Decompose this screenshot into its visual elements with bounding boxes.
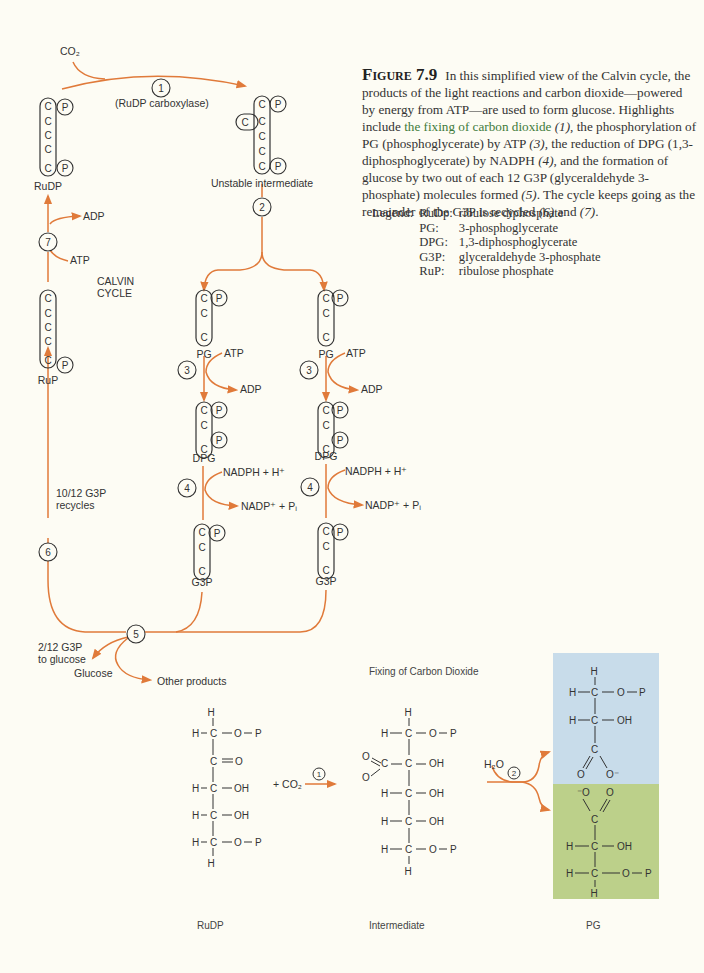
step-3-right-marker: 3 bbox=[300, 361, 318, 379]
svg-text:P: P bbox=[337, 527, 344, 538]
caption-highlight: the fixing of carbon dioxide bbox=[404, 119, 551, 134]
svg-text:2: 2 bbox=[259, 202, 265, 213]
svg-text:OH: OH bbox=[429, 758, 444, 769]
legend-meaning: 1,3-diphosphoglycerate bbox=[459, 235, 607, 250]
rup-molecule: C C C C C P RuP bbox=[38, 290, 73, 386]
legend-abbr: RuDp: bbox=[419, 206, 459, 221]
legend-title: Legend: bbox=[372, 206, 419, 221]
figure-caption: Figure 7.9In this simplified view of the… bbox=[362, 66, 697, 220]
h2o-label: H₂O bbox=[484, 758, 504, 770]
svg-text:C: C bbox=[200, 308, 207, 319]
svg-text:H: H bbox=[192, 728, 199, 739]
step3-left-atp: ATP bbox=[224, 347, 244, 359]
svg-text:2: 2 bbox=[512, 769, 517, 778]
svg-text:C: C bbox=[322, 332, 329, 343]
svg-text:4: 4 bbox=[307, 482, 313, 493]
fixing-step-2-marker: 2 bbox=[508, 767, 520, 779]
svg-text:O⁻: O⁻ bbox=[606, 769, 619, 780]
step7-adp-label: ADP bbox=[83, 210, 105, 222]
calvin-cycle-title-1: CALVIN bbox=[97, 275, 134, 287]
svg-text:C: C bbox=[258, 116, 265, 127]
svg-text:P: P bbox=[216, 405, 223, 416]
fixing-step-1-marker: 1 bbox=[313, 768, 325, 780]
svg-text:C: C bbox=[258, 131, 265, 142]
legend-row: PG:3-phosphoglycerate bbox=[372, 221, 606, 236]
step3-right-adp: ADP bbox=[361, 383, 383, 395]
step4-right-nadp: NADP⁺ + Pᵢ bbox=[365, 499, 421, 511]
svg-text:H: H bbox=[381, 816, 388, 827]
intermediate-bottom-label: Intermediate bbox=[369, 920, 425, 931]
pg-lower-structure: ⁻O O C H C OH H C O P H bbox=[566, 787, 652, 899]
svg-text:H: H bbox=[404, 707, 411, 718]
recycle-label-1: 10/12 G3P bbox=[56, 487, 106, 499]
svg-text:O: O bbox=[606, 787, 614, 798]
svg-text:C: C bbox=[44, 130, 51, 141]
svg-text:C: C bbox=[322, 541, 329, 552]
svg-text:C: C bbox=[44, 322, 51, 333]
svg-text:C: C bbox=[381, 758, 388, 769]
svg-text:6: 6 bbox=[45, 547, 51, 558]
svg-text:O: O bbox=[234, 837, 242, 848]
svg-text:Unstable intermediate: Unstable intermediate bbox=[211, 177, 313, 189]
svg-text:C: C bbox=[258, 146, 265, 157]
legend-abbr: DPG: bbox=[419, 235, 459, 250]
svg-text:1: 1 bbox=[317, 770, 322, 779]
svg-text:DPG: DPG bbox=[315, 450, 338, 462]
g3p-right-molecule: C C C P G3P bbox=[315, 523, 348, 587]
svg-text:H: H bbox=[566, 841, 573, 852]
svg-text:G3P: G3P bbox=[191, 576, 212, 588]
rudp-bottom-label: RuDP bbox=[197, 920, 224, 931]
svg-text:P: P bbox=[255, 728, 262, 739]
svg-text:O: O bbox=[235, 756, 243, 767]
svg-text:C: C bbox=[44, 163, 51, 174]
legend-abbr: PG: bbox=[419, 221, 459, 236]
svg-text:O: O bbox=[577, 769, 585, 780]
pg-upper-structure: H H C O P H C OH C O O⁻ bbox=[569, 666, 646, 780]
svg-text:OH: OH bbox=[234, 810, 249, 821]
svg-text:C: C bbox=[405, 758, 412, 769]
legend-meaning: glyceraldehyde 3-phosphate bbox=[459, 250, 607, 265]
step3-left-adp: ADP bbox=[240, 383, 262, 395]
figure-number: Figure 7.9 bbox=[362, 65, 437, 84]
step3-right-atp: ATP bbox=[346, 347, 366, 359]
svg-text:P: P bbox=[62, 360, 69, 371]
svg-text:C: C bbox=[198, 542, 205, 553]
legend-meaning: ribulose diphosphate bbox=[459, 206, 607, 221]
svg-text:H: H bbox=[381, 844, 388, 855]
svg-text:C: C bbox=[200, 405, 207, 416]
step-5-marker: 5 bbox=[127, 625, 145, 643]
svg-text:C: C bbox=[258, 161, 265, 172]
svg-text:1: 1 bbox=[158, 83, 164, 94]
legend: Legend:RuDp:ribulose diphosphate PG:3-ph… bbox=[372, 206, 606, 279]
svg-text:P: P bbox=[645, 868, 652, 879]
recycle-label-2: recycles bbox=[56, 499, 95, 511]
svg-text:P: P bbox=[62, 163, 69, 174]
dpg-right-molecule: C C C P P DPG bbox=[315, 402, 348, 462]
legend-row: G3P:glyceraldehyde 3-phosphate bbox=[372, 250, 606, 265]
svg-text:C: C bbox=[210, 837, 217, 848]
svg-text:P: P bbox=[337, 293, 344, 304]
svg-text:O: O bbox=[429, 728, 437, 739]
svg-text:OH: OH bbox=[617, 715, 632, 726]
intermediate-structure: H H C O P O C C OH O H C OH H C OH H C O… bbox=[362, 707, 457, 877]
svg-text:C: C bbox=[591, 744, 598, 755]
svg-text:C: C bbox=[44, 308, 51, 319]
svg-text:P: P bbox=[275, 161, 282, 172]
step4-right-nadph: NADPH + H⁺ bbox=[345, 465, 407, 477]
svg-text:C: C bbox=[44, 293, 51, 304]
svg-text:C: C bbox=[591, 841, 598, 852]
svg-text:C: C bbox=[405, 728, 412, 739]
svg-text:C: C bbox=[210, 728, 217, 739]
other-products-label: Other products bbox=[157, 675, 226, 687]
svg-text:P: P bbox=[62, 102, 69, 113]
svg-text:H: H bbox=[381, 788, 388, 799]
step4-left-nadph: NADPH + H⁺ bbox=[223, 466, 285, 478]
svg-text:P: P bbox=[450, 728, 457, 739]
svg-text:4: 4 bbox=[184, 483, 190, 494]
caption-step-5: (5) bbox=[521, 187, 536, 202]
svg-text:OH: OH bbox=[429, 816, 444, 827]
svg-text:C: C bbox=[200, 293, 207, 304]
svg-text:DPG: DPG bbox=[193, 452, 216, 464]
svg-text:O: O bbox=[362, 751, 370, 762]
legend-abbr: RuP: bbox=[419, 264, 459, 279]
